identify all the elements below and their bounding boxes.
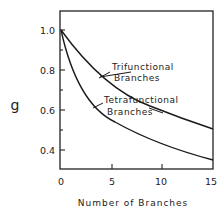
y-tick-label: 0.8 [40,65,55,76]
y-axis-label: g [11,97,20,113]
trifunctional-label: Branches [114,73,160,83]
x-tick-label: 0 [58,176,64,187]
tetrafunctional-label: Branches [107,107,153,117]
x-tick-label: 10 [155,176,167,187]
y-tick-label: 1.0 [40,25,55,36]
trifunctional-label: Trifunctional [111,62,174,72]
x-ticks [112,164,162,169]
y-tick-label: 0.4 [40,145,55,156]
chart: 1.0 0.8 0.6 0.4 0 5 10 15 g Number of Br… [0,0,224,216]
x-tick-label: 15 [205,176,217,187]
y-ticks [60,30,65,150]
x-tick-label: 5 [109,176,115,187]
y-tick-label: 0.6 [40,105,55,116]
tetrafunctional-label: Tetrafunctional [103,95,179,105]
x-axis-label: Number of Branches [78,198,189,208]
